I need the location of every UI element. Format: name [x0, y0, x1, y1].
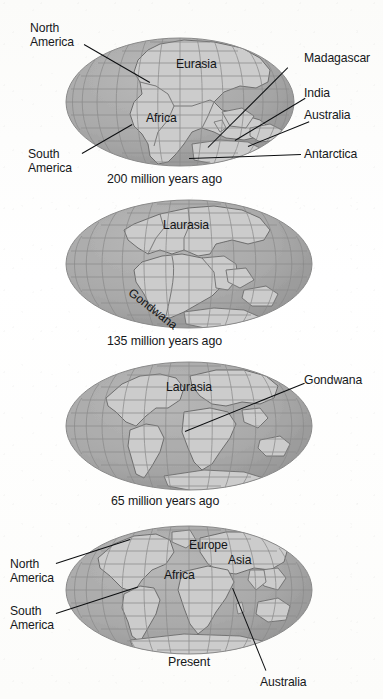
continental-drift-figure: Eurasia Africa North America South Ameri…	[0, 0, 383, 699]
callout-north-america-200ma: North America	[30, 22, 74, 49]
callout-gondwana-65ma: Gondwana	[304, 374, 362, 388]
caption-135ma: 135 million years ago	[107, 334, 222, 348]
callout-south-america-200ma: South America	[28, 148, 72, 175]
caption-200ma: 200 million years ago	[107, 172, 222, 186]
callout-south-america-present: South America	[10, 605, 54, 632]
caption-present: Present	[168, 655, 210, 669]
map-label-eurasia: Eurasia	[176, 57, 217, 71]
callout-india: India	[304, 87, 330, 101]
map-label-africa-present: Africa	[164, 568, 195, 582]
map-label-laurasia-65ma: Laurasia	[166, 380, 212, 394]
map-label-africa-200ma: Africa	[146, 111, 177, 125]
callout-australia-200ma: Australia	[304, 109, 351, 123]
callout-australia-present: Australia	[260, 676, 307, 690]
map-label-europe: Europe	[189, 538, 228, 552]
caption-65ma: 65 million years ago	[111, 494, 219, 508]
callout-north-america-present: North America	[10, 558, 54, 585]
callout-madagascar: Madagascar	[304, 52, 370, 66]
callout-antarctica: Antarctica	[304, 148, 357, 162]
globe-200ma	[64, 36, 296, 168]
map-label-laurasia-135ma: Laurasia	[163, 218, 209, 232]
map-label-asia: Asia	[228, 553, 251, 567]
